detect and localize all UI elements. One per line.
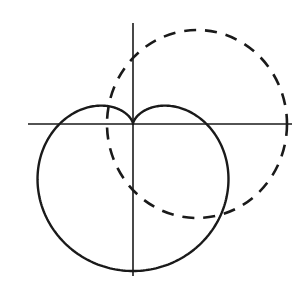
polar-diagram <box>0 0 307 291</box>
